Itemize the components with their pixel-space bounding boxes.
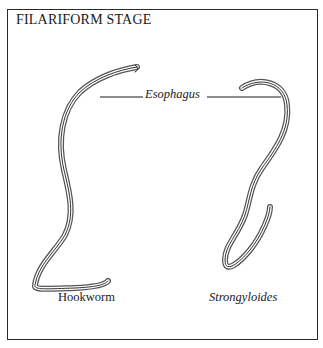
hookworm-label: Hookworm (58, 290, 115, 305)
esophagus-label: Esophagus (143, 87, 202, 102)
strongyloides-label: Strongyloides (209, 290, 277, 305)
strongyloides-larva-drawing (225, 82, 287, 267)
hookworm-larva-drawing (35, 65, 138, 289)
